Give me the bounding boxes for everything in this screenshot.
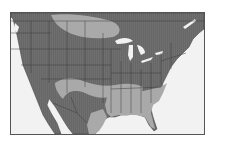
map-frame [10,12,205,135]
us-map [11,13,204,134]
